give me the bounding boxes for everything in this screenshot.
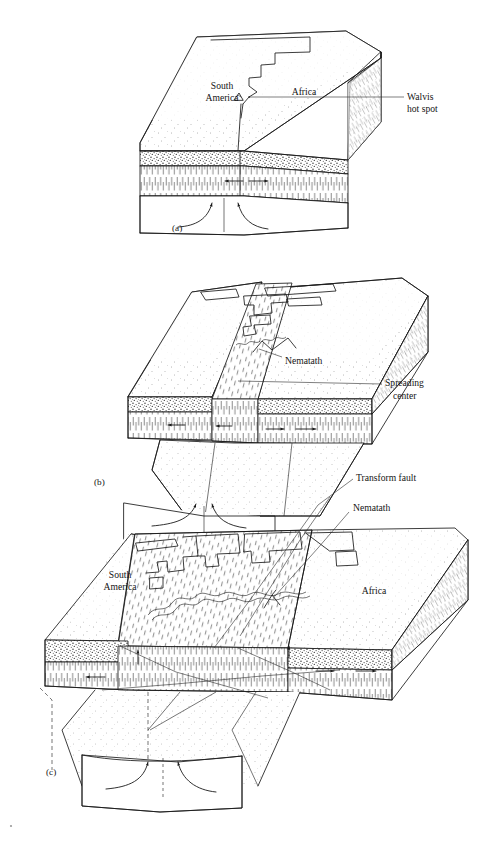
asthenosphere-top-b <box>152 440 364 516</box>
mantle-layer-c-center <box>118 646 288 692</box>
label-nematath-b: Nematath <box>285 355 322 366</box>
crust-band-b-right <box>258 399 372 414</box>
label-transform-fault: Transform fault <box>356 472 416 483</box>
label-south-america-a: South <box>211 80 234 91</box>
figure-root: South America Africa Walvis hot spot (a) <box>0 0 486 848</box>
block-diagram-figure: South America Africa Walvis hot spot (a) <box>0 0 486 848</box>
panel-a: South America Africa Walvis hot spot (a) <box>140 31 438 235</box>
label-spreading-center-line1: Spreading <box>385 377 424 388</box>
new-seafloor-c <box>118 530 312 648</box>
label-walvis-hot-spot-line1: Walvis <box>407 91 434 102</box>
mantle-layer-b-left <box>128 412 212 440</box>
crust-band-c-right <box>288 648 392 670</box>
page-speck <box>10 825 12 827</box>
label-walvis-hot-spot-line2: hot spot <box>407 103 438 114</box>
panel-b: Nematath Spreading center (b) <box>94 278 428 558</box>
crust-band-b-left <box>128 397 212 412</box>
label-spreading-center-line2: center <box>393 390 417 401</box>
label-south-america-c-line1: South <box>109 569 132 580</box>
panel-label-a: (a) <box>172 223 182 233</box>
label-africa-c: Africa <box>362 585 387 596</box>
panel-a-top-surface <box>140 31 381 151</box>
label-south-america-c-line2: America <box>103 581 137 592</box>
label-africa-a: Africa <box>292 86 317 97</box>
panel-label-c: (c) <box>46 767 56 777</box>
crust-band-c-left <box>45 640 128 662</box>
asthenosphere-block-c <box>82 755 242 812</box>
mantle-layer-c-left <box>45 662 128 690</box>
label-nematath-c: Nematath <box>353 502 390 513</box>
label-south-america-a-line2: America <box>205 92 239 103</box>
mantle-axis-b <box>212 399 258 443</box>
panel-label-b: (b) <box>94 477 105 487</box>
